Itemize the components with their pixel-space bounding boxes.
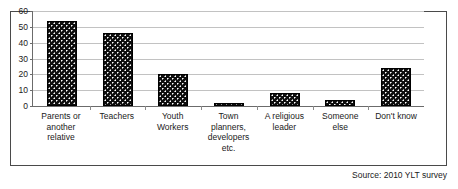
bar: [158, 74, 188, 106]
y-tick-label-40: 40: [19, 38, 28, 47]
bar-slot: [257, 11, 313, 106]
bar-slot: [201, 11, 257, 106]
x-axis-label: Someone else: [312, 111, 368, 153]
bar: [214, 103, 244, 106]
bar-slot: [368, 11, 424, 106]
y-tick-label-20: 20: [19, 70, 28, 79]
y-tick-label-50: 50: [19, 23, 28, 32]
bar-slot: [313, 11, 369, 106]
category-divider: [145, 106, 146, 110]
y-tick-label-0: 0: [23, 102, 28, 111]
x-axis-labels: Parents or another relativeTeachersYouth…: [33, 111, 424, 153]
y-tick-label-10: 10: [19, 86, 28, 95]
bar-chart-figure: 0102030405060 Parents or another relativ…: [0, 0, 458, 189]
gridline-0: [33, 106, 424, 107]
x-axis-label: Town planners, developers etc.: [201, 111, 257, 153]
bar-slot: [90, 11, 146, 106]
y-tick-label-30: 30: [19, 54, 28, 63]
bar: [325, 100, 355, 106]
category-divider: [368, 106, 369, 110]
category-divider: [257, 106, 258, 110]
y-tick-label-60: 60: [19, 7, 28, 16]
bar: [47, 21, 77, 107]
x-axis-label: Teachers: [89, 111, 145, 153]
bars-group: [34, 11, 424, 106]
y-tick-10: [30, 90, 33, 91]
y-tick-60: [30, 11, 33, 12]
bar: [270, 93, 300, 106]
bar: [103, 33, 133, 106]
y-tick-0: [30, 106, 33, 107]
x-axis-label: Don't know: [368, 111, 424, 153]
category-divider: [313, 106, 314, 110]
plot-area: 0102030405060: [32, 11, 424, 107]
x-axis-label: Parents or another relative: [33, 111, 89, 153]
y-tick-30: [30, 59, 33, 60]
x-axis-label: A religious leader: [256, 111, 312, 153]
category-divider: [90, 106, 91, 110]
bar: [381, 68, 411, 106]
y-tick-20: [30, 74, 33, 75]
source-note: Source: 2010 YLT survey: [352, 170, 447, 180]
bar-slot: [34, 11, 90, 106]
y-tick-50: [30, 27, 33, 28]
x-axis-label: Youth Workers: [145, 111, 201, 153]
y-tick-40: [30, 43, 33, 44]
bar-slot: [145, 11, 201, 106]
category-divider: [201, 106, 202, 110]
